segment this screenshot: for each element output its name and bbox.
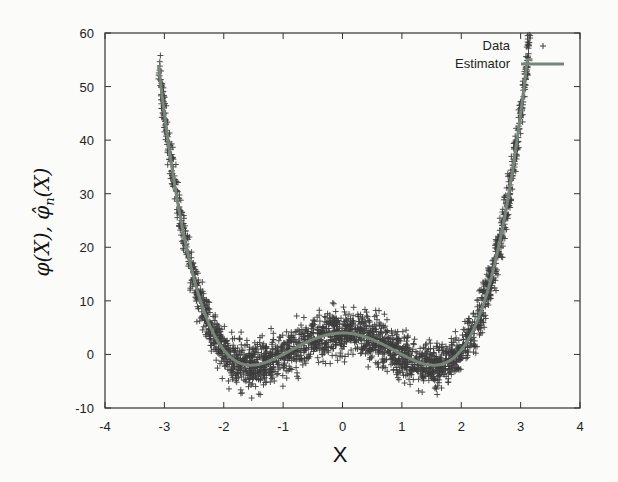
x-tick-label: 4 [576, 419, 583, 434]
x-tick-label: -1 [277, 419, 289, 434]
x-tick-label: -3 [159, 419, 171, 434]
y-tick-label: 20 [80, 240, 94, 255]
legend-label-data: Data [483, 38, 511, 53]
legend: Data Estimator [455, 38, 564, 71]
data-scatter-series [156, 32, 534, 401]
x-tick-label: 3 [517, 419, 524, 434]
x-axis-label: X [333, 442, 348, 467]
y-tick-label: 10 [80, 294, 94, 309]
svg-text:φ(X), φ̂n(X): φ(X), φ̂n(X) [30, 168, 57, 277]
x-tick-label: -4 [99, 419, 111, 434]
y-tick-label: 40 [80, 133, 94, 148]
y-tick-label: -10 [75, 401, 94, 416]
legend-label-estimator: Estimator [455, 56, 511, 71]
y-tick-label: 60 [80, 26, 94, 41]
x-axis: -4-3-2-101234 [99, 33, 583, 434]
legend-data-marker-icon [540, 43, 546, 49]
y-tick-label: 0 [87, 347, 94, 362]
y-axis-label: φ(X), φ̂n(X) [30, 168, 57, 277]
x-tick-label: 1 [398, 419, 405, 434]
x-tick-label: -2 [218, 419, 230, 434]
x-tick-label: 0 [339, 419, 346, 434]
y-tick-label: 50 [80, 80, 94, 95]
y-tick-label: 30 [80, 187, 94, 202]
x-tick-label: 2 [458, 419, 465, 434]
chart-figure: -4-3-2-101234 -100102030405060 X φ(X), φ… [0, 0, 618, 482]
